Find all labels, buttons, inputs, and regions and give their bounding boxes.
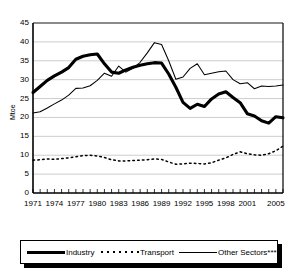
line-chart-figure: Mtoe 051015202530354045 1971197419771980… <box>0 0 298 274</box>
series-line-other-sectors <box>33 43 283 113</box>
plot-area <box>0 0 298 274</box>
axes-frame <box>33 23 283 193</box>
legend-item-industry[interactable]: Industry <box>27 241 94 263</box>
legend-shadow-bottom <box>24 264 282 268</box>
legend-label-other-sectors: Other Sectors**** <box>218 248 280 257</box>
transport-line-swatch-icon <box>101 251 139 253</box>
other-sectors-line-swatch-icon <box>179 252 217 253</box>
industry-line-swatch-icon <box>27 251 65 254</box>
legend-label-industry: Industry <box>66 248 94 257</box>
legend-item-transport[interactable]: Transport <box>101 241 174 263</box>
legend-item-other-sectors[interactable]: Other Sectors**** <box>179 241 280 263</box>
legend-label-transport: Transport <box>140 248 174 257</box>
legend: Industry Transport Other Sectors**** <box>20 240 278 264</box>
series-line-industry <box>33 54 283 123</box>
gridlines <box>33 23 283 174</box>
